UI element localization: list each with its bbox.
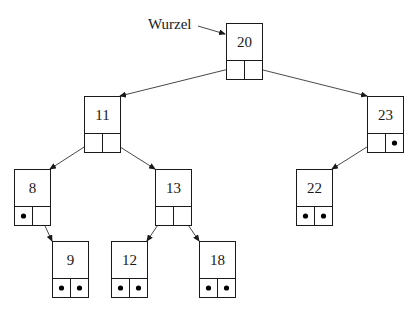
edge-20-to-23-arrow [251, 67, 367, 96]
tree-node-12: 12 [112, 242, 148, 298]
tree-node-18: 18 [200, 242, 236, 298]
node-key: 22 [307, 180, 322, 196]
tree-node-11: 11 [85, 97, 121, 153]
node-key: 11 [95, 107, 109, 123]
node-key: 8 [29, 180, 37, 196]
root-label: Wurzel [148, 16, 192, 32]
node-key: 13 [166, 180, 181, 196]
node-key: 18 [210, 252, 225, 268]
node-key: 23 [378, 107, 393, 123]
null-pointer-left-icon [303, 213, 308, 218]
null-pointer-left-icon [206, 285, 211, 290]
tree-node-9: 9 [53, 242, 89, 298]
null-pointer-left-icon [59, 285, 64, 290]
null-pointer-right-icon [224, 285, 229, 290]
null-pointer-right-icon [392, 140, 397, 145]
tree-node-22: 22 [297, 170, 333, 226]
null-pointer-right-icon [136, 285, 141, 290]
null-pointer-right-icon [321, 213, 326, 218]
edge-20-to-11-arrow [120, 67, 237, 96]
binary-tree-diagram: Wurzel 2011238132291218 [0, 0, 419, 311]
tree-node-23: 23 [368, 97, 404, 153]
root-pointer-arrow [198, 26, 225, 34]
node-key: 9 [67, 252, 75, 268]
node-key: 20 [237, 34, 252, 50]
null-pointer-right-icon [77, 285, 82, 290]
tree-node-13: 13 [156, 170, 192, 226]
null-pointer-left-icon [118, 285, 123, 290]
tree-node-8: 8 [15, 170, 51, 226]
node-key: 12 [122, 252, 137, 268]
null-pointer-left-icon [21, 213, 26, 218]
tree-node-20: 20 [227, 24, 263, 80]
